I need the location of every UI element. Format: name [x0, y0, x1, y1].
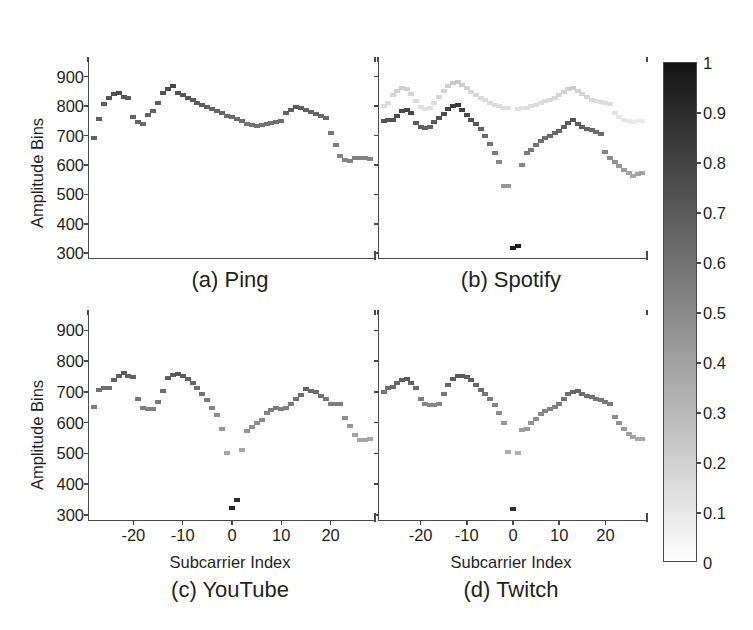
data-point	[612, 111, 618, 115]
data-point	[342, 416, 348, 420]
data-point	[510, 507, 516, 511]
data-point	[418, 397, 424, 401]
data-point	[381, 390, 387, 394]
colorbar-tick-mark	[696, 112, 701, 113]
data-point	[111, 378, 117, 382]
data-point	[556, 129, 562, 133]
data-point	[145, 113, 151, 117]
data-point	[533, 143, 539, 147]
data-point	[234, 498, 240, 502]
spotify-caption: (b) Spotify	[461, 267, 561, 293]
axis-cap-right	[374, 57, 376, 62]
data-point	[473, 122, 479, 126]
data-point	[607, 402, 613, 406]
data-point	[427, 106, 433, 110]
y-tick-mark	[374, 360, 379, 362]
axis-cap-right	[646, 57, 648, 62]
intensity-colorbar: 10.90.80.70.60.50.40.30.20.10	[663, 62, 697, 562]
axis-end-right	[646, 513, 648, 522]
data-point	[524, 427, 530, 431]
x-tick-mark	[512, 520, 514, 525]
youtube-x-axis-label: Subcarrier Index	[169, 553, 290, 572]
data-point	[639, 119, 645, 123]
x-tick-label: 10	[272, 527, 290, 544]
data-point	[464, 113, 470, 117]
data-point	[612, 415, 618, 419]
axis-cap-right	[374, 310, 376, 315]
data-point	[150, 407, 156, 411]
data-point	[385, 101, 391, 105]
data-point	[244, 429, 250, 433]
data-point	[552, 405, 558, 409]
colorbar-tick-mark	[696, 362, 701, 363]
youtube-caption: (c) YouTube	[171, 577, 289, 603]
data-point	[337, 402, 343, 406]
colorbar-tick-label: 0.9	[703, 105, 726, 122]
data-point	[381, 104, 387, 108]
y-tick-mark	[84, 483, 89, 485]
y-tick-mark	[84, 164, 89, 166]
data-point	[436, 116, 442, 120]
data-point	[91, 405, 97, 409]
data-point	[561, 397, 567, 401]
twitch-panel: -20-1001020 Subcarrier Index (d) Twitch	[378, 315, 645, 520]
colorbar-tick-mark	[696, 462, 701, 463]
x-tick-label: 20	[321, 527, 339, 544]
data-point	[352, 433, 358, 437]
data-point	[155, 101, 161, 105]
x-tick-label: -10	[455, 527, 479, 544]
data-point	[533, 417, 539, 421]
data-point	[505, 450, 511, 454]
data-point	[639, 437, 645, 441]
data-point	[404, 87, 410, 91]
data-point	[607, 102, 613, 106]
y-tick-mark	[84, 514, 89, 516]
y-tick-label: 300	[56, 245, 84, 262]
data-point	[204, 398, 210, 402]
data-point	[101, 102, 107, 106]
data-point	[333, 143, 339, 147]
x-tick-label: -20	[409, 527, 433, 544]
x-tick-label: 20	[596, 527, 614, 544]
data-point	[639, 171, 645, 175]
axis-cap-right	[646, 310, 648, 315]
data-point	[408, 92, 414, 96]
data-point	[298, 393, 304, 397]
data-point	[106, 386, 112, 390]
data-point	[190, 381, 196, 385]
data-point	[473, 383, 479, 387]
data-point	[199, 392, 205, 396]
x-tick-mark	[420, 520, 422, 525]
data-point	[390, 93, 396, 97]
colorbar-tick-label: 0.7	[703, 205, 726, 222]
data-point	[116, 374, 122, 378]
axis-end-right	[646, 251, 648, 260]
data-point	[459, 108, 465, 112]
data-point	[505, 184, 511, 188]
data-point	[96, 117, 102, 121]
y-tick-label: 600	[56, 157, 84, 174]
data-point	[427, 125, 433, 129]
data-point	[501, 421, 507, 425]
data-point	[209, 406, 215, 410]
data-point	[515, 451, 521, 455]
y-tick-mark	[374, 194, 379, 196]
y-tick-label: 800	[56, 98, 84, 115]
data-point	[239, 448, 245, 452]
x-tick-mark	[466, 520, 468, 525]
data-point	[519, 163, 525, 167]
y-tick-mark	[84, 330, 89, 332]
colorbar-tick-mark	[696, 212, 701, 213]
y-tick-label: 400	[56, 215, 84, 232]
data-point	[441, 89, 447, 93]
twitch-x-axis-label: Subcarrier Index	[450, 553, 571, 572]
data-point	[224, 451, 230, 455]
youtube-data-points	[89, 315, 374, 520]
y-tick-mark	[374, 135, 379, 137]
data-point	[431, 120, 437, 124]
spotify-plot-frame	[378, 62, 646, 259]
y-tick-mark	[84, 422, 89, 424]
y-tick-label: 500	[56, 186, 84, 203]
y-tick-mark	[84, 252, 89, 254]
data-point	[160, 91, 166, 95]
